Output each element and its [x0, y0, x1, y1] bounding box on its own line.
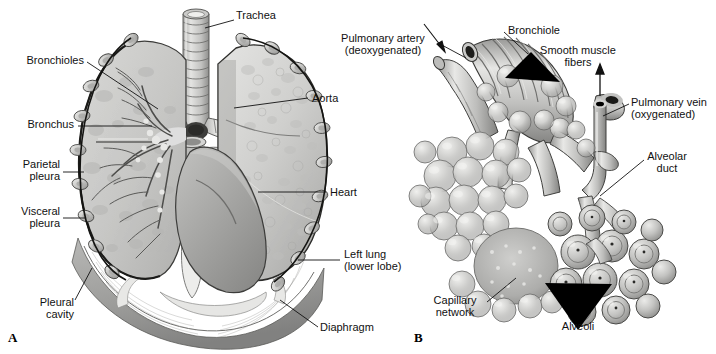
label-alveoli: Alveoli: [548, 320, 608, 332]
figure-page: Trachea Bronchioles Bronchus Parietal pl…: [0, 0, 716, 354]
label-bronchus: Bronchus: [0, 118, 74, 130]
label-smooth-muscle-fibers: Smooth muscle fibers: [530, 44, 626, 68]
trachea-shape: [183, 9, 209, 126]
capillary-network-shape: [474, 228, 558, 304]
label-pulmonary-vein: Pulmonary vein (oxygenated): [631, 96, 707, 120]
label-alveolar-duct: Alveolar duct: [638, 150, 696, 174]
label-heart: Heart: [330, 186, 357, 198]
panel-a-illustration: [63, 9, 340, 349]
label-capillary-network: Capillary network: [424, 294, 486, 318]
label-trachea: Trachea: [236, 9, 276, 21]
panel-letter-b: B: [414, 330, 423, 346]
label-parietal-pleura: Parietal pleura: [0, 158, 60, 182]
label-bronchiole: Bronchiole: [508, 24, 560, 36]
panel-b-illustration: [409, 24, 676, 330]
label-pulmonary-artery: Pulmonary artery (deoxygenated): [328, 32, 438, 56]
label-visceral-pleura: Visceral pleura: [0, 205, 60, 229]
label-bronchioles: Bronchioles: [0, 54, 84, 66]
label-aorta: Aorta: [312, 92, 338, 104]
label-pleural-cavity: Pleural cavity: [0, 296, 74, 320]
label-left-lung: Left lung (lower lobe): [344, 248, 401, 272]
panel-letter-a: A: [8, 330, 17, 346]
label-diaphragm: Diaphragm: [320, 321, 374, 333]
arrow-pulmonary-vein-flow: [596, 64, 604, 96]
